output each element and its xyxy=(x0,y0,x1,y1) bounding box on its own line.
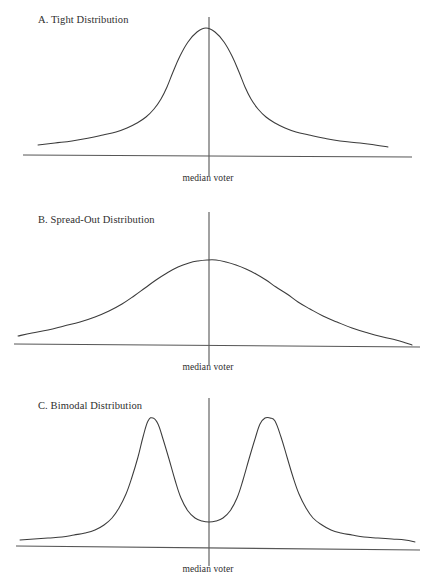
panel-a-plot xyxy=(0,0,432,196)
panel-c-distribution-curve xyxy=(20,417,415,542)
panel-b-distribution-curve xyxy=(18,260,412,345)
panel-b-median-voter-label: median voter xyxy=(182,362,233,372)
panel-a-title: A. Tight Distribution xyxy=(38,14,129,25)
panel-a-median-voter-label: median voter xyxy=(182,173,233,183)
panel-b-title: B. Spread-Out Distribution xyxy=(38,214,155,225)
panel-a-distribution-curve xyxy=(38,28,388,147)
panel-a-baseline-axis xyxy=(23,155,412,157)
panel-spread-out-distribution: B. Spread-Out Distribution median voter xyxy=(0,196,432,386)
panel-tight-distribution: A. Tight Distribution median voter xyxy=(0,0,432,196)
panel-c-title: C. Bimodal Distribution xyxy=(38,400,142,411)
panel-c-baseline-axis xyxy=(16,546,420,550)
distributions-figure: A. Tight Distribution median voter B. Sp… xyxy=(0,0,432,580)
panel-b-baseline-axis xyxy=(14,344,420,347)
panel-c-median-voter-label: median voter xyxy=(182,564,233,574)
panel-c-plot xyxy=(0,386,432,580)
panel-bimodal-distribution: C. Bimodal Distribution median voter xyxy=(0,386,432,580)
